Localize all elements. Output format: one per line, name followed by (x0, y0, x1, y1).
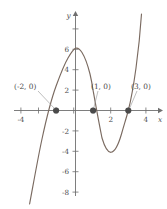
annotation-root-3: (3, 0) (131, 82, 151, 91)
y-tick-label-6: 6 (64, 45, 69, 54)
x-axis-label: x (158, 115, 163, 124)
annotation-root-1: (1, 0) (91, 82, 111, 91)
y-tick-label--4: -4 (62, 147, 69, 156)
x-axis-arrowhead (158, 108, 163, 113)
y-tick-label--8: -8 (62, 188, 69, 197)
y-tick-label--6: -6 (62, 167, 69, 176)
cubic-function-plot: -4 2 4 6 4 2 -2 -4 -6 -8 x y (-2, 0) (1,… (0, 0, 167, 209)
annotation-root--2: (-2, 0) (14, 82, 36, 91)
y-tick-label-2: 2 (64, 86, 69, 95)
y-axis-arrowhead (73, 11, 78, 16)
y-axis-label: y (66, 11, 72, 20)
x-tick-label-4: 4 (144, 115, 149, 124)
x-tick-label-2: 2 (108, 115, 113, 124)
chart-figure: -4 2 4 6 4 2 -2 -4 -6 -8 x y (-2, 0) (1,… (0, 0, 167, 209)
root-point-1 (90, 107, 96, 113)
root-point-3 (125, 107, 131, 113)
x-tick-label--4: -4 (17, 115, 24, 124)
cubic-curve (30, 14, 142, 204)
y-tick-label--2: -2 (62, 127, 69, 136)
y-tick-label-4: 4 (64, 65, 69, 74)
